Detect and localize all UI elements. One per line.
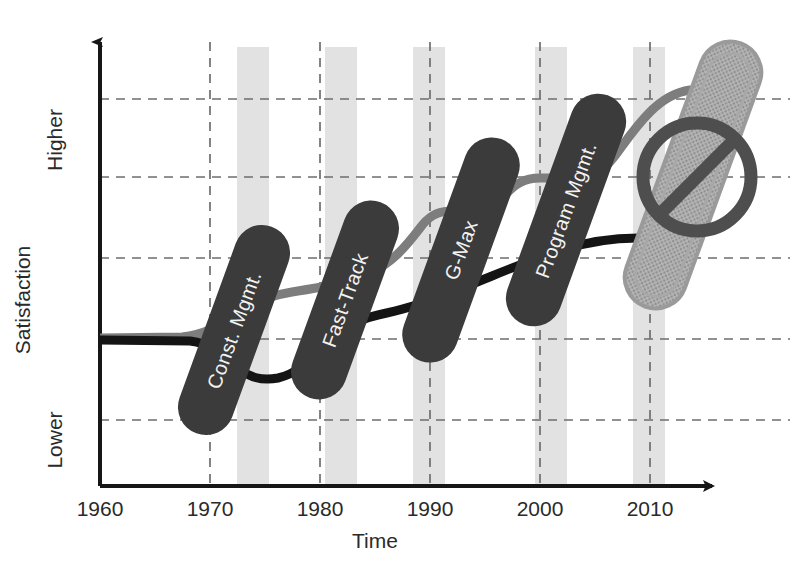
- satisfaction-time-chart: Const. Mgmt. Fast-Track G-Max Program Mg…: [0, 0, 800, 567]
- x-tick-2000: 2000: [517, 497, 564, 520]
- y-axis-high-label: Higher: [43, 109, 66, 171]
- y-axis-title: Satisfaction: [11, 246, 34, 355]
- x-tick-1970: 1970: [187, 497, 234, 520]
- x-tick-1990: 1990: [407, 497, 454, 520]
- x-axis-title: Time: [352, 529, 398, 552]
- chart-container: Const. Mgmt. Fast-Track G-Max Program Mg…: [0, 0, 800, 567]
- x-tick-1980: 1980: [297, 497, 344, 520]
- x-tick-2010: 2010: [627, 497, 674, 520]
- x-tick-1960: 1960: [77, 497, 124, 520]
- y-axis-low-label: Lower: [43, 411, 66, 468]
